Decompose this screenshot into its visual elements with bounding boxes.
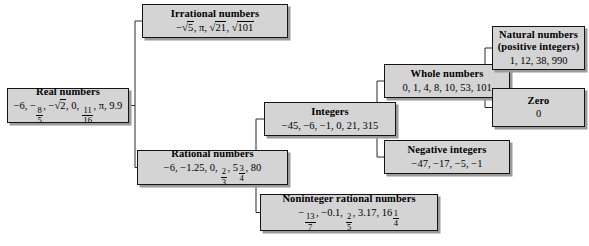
node-title: Natural numbers (positive integers) — [498, 29, 580, 54]
node-items: −√5, π, √21, √101 — [176, 21, 254, 34]
node-zero[interactable]: Zero 0 — [492, 88, 585, 127]
node-title: Real numbers — [36, 86, 100, 98]
node-integers[interactable]: Integers −45, −6, −1, 0, 21, 315 — [264, 102, 396, 136]
node-items: −6, −85, −√2, 0, 1116, π, 9.9 — [14, 99, 123, 125]
number-classification-diagram: Real numbers −6, −85, −√2, 0, 1116, π, 9… — [0, 0, 589, 246]
node-natural-numbers[interactable]: Natural numbers (positive integers) 1, 1… — [492, 26, 585, 70]
node-title: Rational numbers — [171, 148, 253, 160]
node-title: Negative integers — [408, 144, 487, 156]
node-title-line2: (positive integers) — [498, 41, 580, 53]
edge-real-to-children — [129, 21, 142, 168]
node-rational-numbers[interactable]: Rational numbers −6, −1.25, 0, 23, 534, … — [137, 150, 288, 185]
node-items: −6, −1.25, 0, 23, 534, 80 — [164, 162, 261, 187]
node-title: Irrational numbers — [171, 8, 259, 20]
node-negative-integers[interactable]: Negative integers −47, −17, −5, −1 — [384, 140, 510, 174]
node-items: 0 — [536, 108, 541, 120]
node-items: −45, −6, −1, 0, 21, 315 — [282, 120, 379, 132]
node-irrational-numbers[interactable]: Irrational numbers −√5, π, √21, √101 — [142, 4, 288, 38]
node-items: 0, 1, 4, 8, 10, 53, 101 — [402, 82, 491, 94]
node-title-line1: Natural numbers — [499, 29, 578, 40]
node-title: Integers — [311, 106, 349, 118]
node-real-numbers[interactable]: Real numbers −6, −85, −√2, 0, 1116, π, 9… — [7, 88, 129, 123]
node-title: Noninteger rational numbers — [282, 193, 415, 205]
node-items: −137, −0.1, 25, 3.17, 1614 — [298, 207, 399, 232]
node-noninteger-rational-numbers[interactable]: Noninteger rational numbers −137, −0.1, … — [260, 194, 438, 231]
node-items: 1, 12, 38, 990 — [510, 55, 568, 67]
node-title: Whole numbers — [411, 68, 484, 80]
node-items: −47, −17, −5, −1 — [412, 158, 483, 170]
node-title: Zero — [528, 95, 550, 107]
